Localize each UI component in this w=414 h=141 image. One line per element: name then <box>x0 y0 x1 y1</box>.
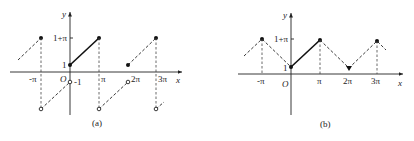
dashed-segment <box>18 38 41 60</box>
x-tick-label-pi: π <box>101 74 106 84</box>
open-point <box>126 80 130 84</box>
solid-segment <box>291 40 320 67</box>
filled-point <box>126 63 130 67</box>
x-tick-label-two-pi: 2π <box>131 74 141 84</box>
filled-point <box>68 63 72 67</box>
dashed-segment <box>99 82 128 109</box>
dashed-segment <box>41 82 70 109</box>
dashed-segment <box>320 40 386 68</box>
open-point <box>68 80 72 84</box>
origin-label: O <box>282 79 289 89</box>
caption-a: (a) <box>92 118 102 128</box>
y-tick-label-one-plus-pi: 1+π <box>53 33 68 43</box>
y-tick-label-one: 1 <box>62 60 67 70</box>
x-axis-label: x <box>175 75 180 85</box>
solid-segment <box>70 38 99 65</box>
figure-a: y x O 1+π 1 -1 -π π 2π 3π (a) <box>10 9 182 128</box>
y-tick-label-one-plus-pi: 1+π <box>274 34 289 44</box>
x-tick-label-neg-pi: -π <box>29 74 37 84</box>
figure-canvas: y x O 1+π 1 -1 -π π 2π 3π (a) y x O <box>0 0 414 141</box>
caption-b: (b) <box>320 119 331 129</box>
x-tick-label-pi: π <box>317 76 322 86</box>
x-axis-label: x <box>397 78 402 88</box>
origin-label: O <box>60 74 67 84</box>
x-tick-label-three-pi: 3π <box>158 74 168 84</box>
figure-b: y x O 1+π 1 -π π 2π 3π (b) <box>238 10 403 129</box>
x-tick-label-neg-pi: -π <box>257 76 265 86</box>
x-tick-label-two-pi: 2π <box>343 76 353 86</box>
filled-point <box>346 66 352 71</box>
y-tick-label-neg-one: -1 <box>74 77 82 87</box>
y-axis-label: y <box>282 10 287 20</box>
y-tick-label-one: 1 <box>283 63 288 73</box>
y-axis-label: y <box>61 9 66 19</box>
x-tick-label-three-pi: 3π <box>371 76 381 86</box>
dashed-segment <box>128 38 156 65</box>
